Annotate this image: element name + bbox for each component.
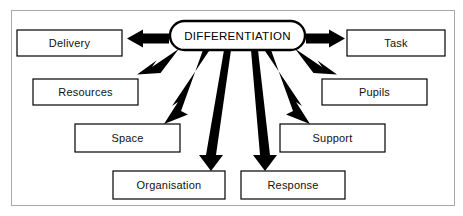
arrow-to-support (263, 48, 310, 124)
differentiation-diagram: Delivery Task Resources Pupils Space Sup… (0, 0, 463, 216)
arrow-to-delivery (127, 30, 169, 48)
node-pupils[interactable]: Pupils (322, 79, 427, 105)
arrow-to-task (306, 30, 345, 48)
node-resources[interactable]: Resources (33, 79, 138, 105)
node-space-label: Space (111, 132, 143, 144)
node-organisation[interactable]: Organisation (113, 171, 225, 199)
center-node-label: DIFFERENTIATION (184, 30, 291, 42)
node-pupils-label: Pupils (359, 86, 390, 98)
arrow-to-pupils (291, 46, 337, 79)
diagram-canvas: Delivery Task Resources Pupils Space Sup… (0, 0, 463, 216)
node-task-label: Task (384, 37, 408, 49)
node-support[interactable]: Support (280, 124, 385, 152)
arrow-to-response (251, 50, 277, 171)
node-response[interactable]: Response (241, 171, 345, 199)
node-support-label: Support (313, 132, 353, 144)
node-resources-label: Resources (58, 86, 113, 98)
node-response-label: Response (267, 179, 318, 191)
center-node-differentiation[interactable]: DIFFERENTIATION (170, 21, 305, 50)
arrow-to-space (164, 48, 211, 124)
arrow-to-organisation (199, 50, 231, 171)
arrow-to-resources (137, 46, 183, 79)
node-delivery-label: Delivery (49, 37, 91, 49)
node-organisation-label: Organisation (137, 179, 202, 191)
node-space[interactable]: Space (75, 124, 180, 152)
node-delivery[interactable]: Delivery (17, 30, 122, 56)
node-task[interactable]: Task (347, 30, 445, 56)
